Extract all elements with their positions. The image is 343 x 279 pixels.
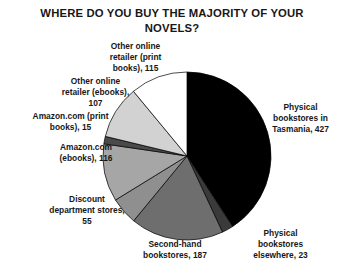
slice-label-physical-bookstores-tasmania: Physical bookstores in Tasmania, 427	[258, 102, 343, 135]
slice-label-other-online-retailer-print-books: Other online retailer (print books), 115	[83, 41, 188, 74]
slice-label-amazon-print-books: Amazon.com (print books), 15	[5, 111, 136, 133]
slice-label-amazon-ebooks: Amazon.com (ebooks), 116	[32, 142, 140, 164]
pie-chart-figure: WHERE DO YOU BUY THE MAJORITY OF YOUR NO…	[0, 0, 343, 279]
slice-label-physical-bookstores-elsewhere: Physical bookstores elsewhere, 23	[228, 228, 333, 261]
slice-label-discount-department-stores: Discount department stores, 55	[22, 194, 152, 227]
slice-label-other-online-retailer-ebooks: Other online retailer (ebooks), 107	[38, 76, 153, 109]
slice-label-second-hand-bookstores: Second-hand bookstores, 187	[122, 239, 228, 261]
